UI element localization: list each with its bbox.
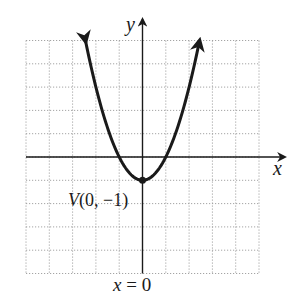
y-axis-label: y [124, 13, 135, 36]
parabola-graph: x y V(0, −1) x = 0 [0, 0, 295, 296]
vertex-label-coords: (0, −1) [79, 190, 128, 211]
vertex-label: V(0, −1) [68, 190, 128, 211]
axis-of-symmetry-label: x = 0 [112, 274, 151, 295]
symmetry-label-value: = 0 [121, 274, 151, 295]
x-axis-label: x [272, 157, 282, 179]
vertex-point [139, 177, 146, 184]
